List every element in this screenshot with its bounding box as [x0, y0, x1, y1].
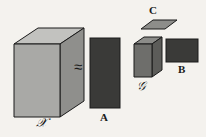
label-matrix-a: A — [100, 112, 108, 123]
approx-symbol: ≈ — [74, 59, 82, 74]
core-tensor-cuboid — [134, 37, 162, 77]
label-matrix-c: C — [149, 5, 157, 16]
tensor-x-front-face — [14, 44, 60, 117]
factor-matrix-b — [166, 39, 198, 62]
core-g-front-face — [134, 44, 152, 77]
label-core-g: 𝒢 — [137, 80, 146, 92]
label-matrix-b: B — [178, 64, 185, 75]
label-tensor-x: 𝒳 — [36, 116, 47, 129]
factor-matrix-a — [90, 38, 120, 108]
core-g-side-face — [152, 37, 162, 77]
